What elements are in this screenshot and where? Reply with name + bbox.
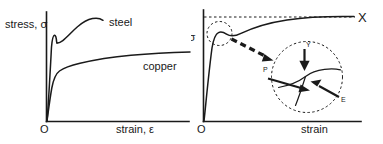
curve-label-copper: copper xyxy=(143,60,177,72)
origin-label-right: O xyxy=(197,123,206,135)
y-axis-label-left: stress, σ xyxy=(5,18,47,30)
annotation-arrow-E xyxy=(311,80,340,98)
axes-right xyxy=(204,10,362,122)
origin-label-left: O xyxy=(40,123,49,135)
callout-label-P: P xyxy=(263,66,268,73)
x-axis-label-left: strain, ε xyxy=(116,123,154,135)
x-axis-label-right: strain xyxy=(301,123,328,135)
callout-source-circle xyxy=(207,22,232,46)
failure-point-label-x: X xyxy=(358,10,367,25)
callout-label-E: E xyxy=(341,96,346,103)
callout-magnifier-circle xyxy=(272,42,343,113)
callout-detail xyxy=(279,69,341,106)
curve-steel xyxy=(47,18,103,121)
chart-panel-left: stress, σ strain, ε O steel copper xyxy=(0,0,191,144)
figure-root: stress, σ strain, ε O steel copper xyxy=(0,0,383,144)
chart-panel-right: stress, σ σₓ X strain O P E Y xyxy=(191,0,383,144)
curve-label-steel: steel xyxy=(109,16,132,28)
y-axis-label-right: stress, σ xyxy=(191,31,195,43)
callout-zoom-arrow xyxy=(232,39,274,62)
annotation-arrow-Y xyxy=(299,49,309,71)
callout-label-Y: Y xyxy=(306,41,311,48)
